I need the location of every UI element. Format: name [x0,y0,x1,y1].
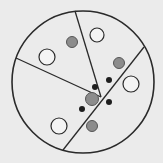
black-dot [106,77,112,83]
black-dot [79,106,85,112]
left-line [16,58,101,97]
black-dot [92,84,98,90]
white-circle [90,28,104,42]
white-circle [51,118,67,134]
gray-circle [87,121,98,132]
black-dot [106,99,112,105]
gray-circle [67,37,78,48]
partitioned-circle-diagram [0,0,163,163]
gray-circle [114,58,125,69]
white-circle [39,49,55,65]
top-line [75,11,101,97]
diagram-canvas [0,0,163,163]
white-circle [123,76,139,92]
gray-circle [86,93,99,106]
